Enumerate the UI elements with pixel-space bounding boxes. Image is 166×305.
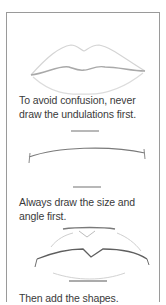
caption-step-2: Always draw the size and angle first. [19, 195, 159, 223]
caption-step-3: Then add the shapes. [19, 291, 159, 305]
caption-step-1: To avoid confusion, never draw the undul… [19, 93, 159, 121]
lips-guidelines-icon [7, 123, 161, 193]
lips-shapes-icon [7, 223, 161, 289]
lips-complete-icon [7, 23, 161, 95]
illustration-panel: To avoid confusion, never draw the undul… [6, 12, 160, 302]
